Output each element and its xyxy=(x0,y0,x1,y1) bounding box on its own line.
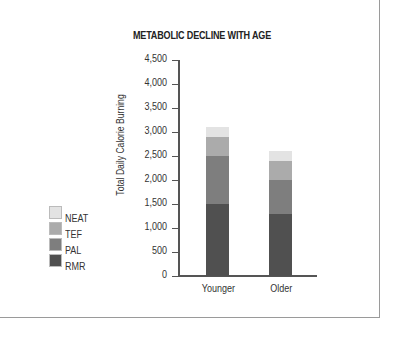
bar-segment-tef-older xyxy=(269,161,292,180)
bar-segment-neat-younger xyxy=(206,127,229,137)
x-tick-label: Older xyxy=(270,283,292,294)
legend-label: TEF xyxy=(65,229,82,240)
bar-segment-rmr-younger xyxy=(206,204,229,276)
y-tick xyxy=(172,276,178,277)
y-tick xyxy=(172,252,178,253)
y-tick xyxy=(172,132,178,133)
y-axis-line xyxy=(178,60,180,277)
legend-swatch xyxy=(49,254,62,267)
bar-segment-tef-younger xyxy=(206,137,229,156)
y-tick xyxy=(172,180,178,181)
x-axis-line xyxy=(178,275,317,277)
y-tick xyxy=(172,108,178,109)
legend-swatch xyxy=(49,222,62,235)
y-tick-label: 3,500 xyxy=(113,101,167,112)
y-tick-label: 1,500 xyxy=(113,197,167,208)
bar-segment-rmr-older xyxy=(269,214,292,276)
y-tick xyxy=(172,228,178,229)
bar-segment-pal-younger xyxy=(206,156,229,204)
y-tick-label: 1,000 xyxy=(113,221,167,232)
y-tick xyxy=(172,204,178,205)
legend-swatch xyxy=(49,238,62,251)
legend-label: NEAT xyxy=(65,213,88,224)
legend-label: RMR xyxy=(65,261,86,272)
y-tick xyxy=(172,84,178,85)
bar-segment-pal-older xyxy=(269,180,292,214)
y-tick-label: 0 xyxy=(113,269,167,280)
x-tick-label: Younger xyxy=(202,283,235,294)
chart-card xyxy=(0,0,380,318)
y-tick-label: 2,500 xyxy=(113,149,167,160)
y-tick-label: 2,000 xyxy=(113,173,167,184)
y-tick-label: 4,000 xyxy=(113,77,167,88)
legend-label: PAL xyxy=(65,245,81,256)
y-tick-label: 500 xyxy=(113,245,167,256)
legend-swatch xyxy=(49,206,62,219)
y-tick xyxy=(172,60,178,61)
y-tick-label: 4,500 xyxy=(113,53,167,64)
bar-segment-neat-older xyxy=(269,151,292,161)
y-tick xyxy=(172,156,178,157)
y-tick-label: 3,000 xyxy=(113,125,167,136)
chart-title: METABOLIC DECLINE WITH AGE xyxy=(133,29,271,41)
